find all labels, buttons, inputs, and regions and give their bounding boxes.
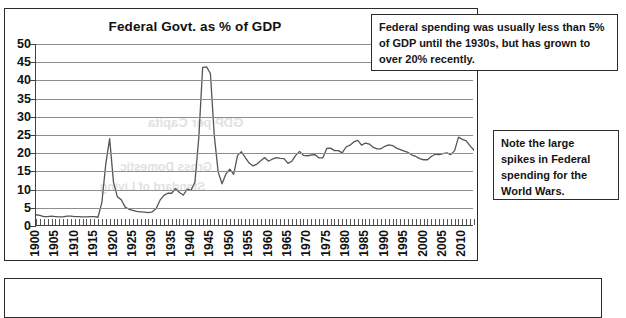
x-axis-tick-label: 1900 [29, 230, 41, 257]
x-axis-tick-label: 1960 [262, 230, 274, 257]
x-axis-tick-mark [59, 219, 60, 225]
x-axis-tick-mark [199, 219, 200, 225]
x-axis-tick-mark [431, 219, 432, 225]
y-axis-tick-mark [30, 62, 36, 63]
x-axis-tick-mark [249, 219, 250, 225]
y-axis-tick-label: 30 [17, 111, 31, 124]
x-axis-tick-mark [424, 219, 425, 225]
gridline [36, 153, 473, 154]
x-axis-tick-mark [168, 219, 169, 225]
x-axis-tick-mark [90, 219, 91, 225]
x-axis-tick-mark [385, 219, 386, 225]
x-axis-tick-mark [451, 219, 452, 225]
x-axis-tick-mark [350, 219, 351, 225]
x-axis-tick-mark [373, 219, 374, 225]
y-axis-tick-mark [30, 117, 36, 118]
x-axis-tick-mark [342, 219, 343, 225]
x-axis-tick-mark [129, 219, 130, 225]
x-axis-tick-mark [447, 219, 448, 225]
x-axis-tick-mark [117, 219, 118, 225]
x-axis-tick-label: 1910 [68, 230, 80, 257]
x-axis-tick-mark [365, 219, 366, 225]
gridline [36, 208, 473, 209]
x-axis-tick-mark [238, 219, 239, 225]
x-axis-tick-mark [319, 219, 320, 225]
x-axis-tick-mark [257, 219, 258, 225]
x-axis-tick-mark [261, 219, 262, 225]
x-axis-tick-mark [334, 219, 335, 225]
x-axis-tick-label: 1965 [281, 230, 293, 257]
x-axis-tick-mark [474, 219, 475, 225]
y-axis-tick-mark [30, 226, 36, 227]
x-axis-tick-mark [172, 219, 173, 225]
y-axis-tick-mark [30, 208, 36, 209]
x-axis-tick-mark [393, 219, 394, 225]
x-axis-tick-mark [389, 219, 390, 225]
x-axis-tick-label: 1995 [397, 230, 409, 257]
x-axis-tick-mark [152, 219, 153, 225]
x-axis-tick-mark [439, 219, 440, 225]
x-axis-tick-label: 2000 [417, 230, 429, 257]
gridline [36, 190, 473, 191]
x-axis-tick-mark [404, 219, 405, 225]
x-axis-tick-mark [83, 219, 84, 225]
x-axis-tick-label: 1985 [358, 230, 370, 257]
annotation-note-spending-growth: Federal spending was usually less than 5… [371, 14, 618, 71]
x-axis-tick-mark [106, 219, 107, 225]
x-axis-tick-mark [435, 219, 436, 225]
x-axis-tick-mark [164, 219, 165, 225]
x-axis-tick-label: 1940 [184, 230, 196, 257]
x-axis-tick-mark [346, 219, 347, 225]
x-axis-tick-mark [412, 219, 413, 225]
x-axis-tick-label: 1925 [126, 230, 138, 257]
x-axis-tick-mark [331, 219, 332, 225]
x-axis-tick-mark [377, 219, 378, 225]
y-axis-tick-mark [30, 190, 36, 191]
x-axis-tick-mark [114, 219, 115, 225]
x-axis-tick-mark [408, 219, 409, 225]
x-axis-tick-mark [292, 219, 293, 225]
y-axis-tick-label: 35 [17, 92, 31, 105]
x-axis-tick-mark [416, 219, 417, 225]
annotation-note-world-wars: Note the large spikes in Federal spendin… [493, 130, 619, 200]
x-axis-tick-mark [75, 219, 76, 225]
x-axis-tick-mark [214, 219, 215, 225]
x-axis-tick-mark [98, 219, 99, 225]
x-axis-tick-label: 1980 [339, 230, 351, 257]
x-axis-tick-mark [86, 219, 87, 225]
x-axis-tick-mark [323, 219, 324, 225]
x-axis-tick-mark [187, 219, 188, 225]
gridline [36, 80, 473, 81]
x-axis-tick-mark [311, 219, 312, 225]
plot-area: 05101520253035404550 [35, 44, 473, 226]
x-axis-tick-label: 1905 [48, 230, 60, 257]
x-axis-tick-mark [148, 219, 149, 225]
x-axis-tick-mark [400, 219, 401, 225]
y-axis-tick-mark [30, 171, 36, 172]
x-axis-tick-mark [462, 219, 463, 225]
x-axis-tick-mark [327, 219, 328, 225]
gridline [36, 171, 473, 172]
x-axis-tick-mark [253, 219, 254, 225]
y-axis-tick-label: 10 [17, 183, 31, 196]
x-axis-tick-mark [362, 219, 363, 225]
x-axis-tick-mark [156, 219, 157, 225]
x-axis-tick-mark [381, 219, 382, 225]
x-axis-tick-mark [71, 219, 72, 225]
y-axis-tick-label: 25 [17, 129, 31, 142]
y-axis-tick-label: 20 [17, 147, 31, 160]
x-axis-tick-label: 1975 [320, 230, 332, 257]
x-axis-tick-mark [110, 219, 111, 225]
x-axis-tick-label: 1930 [145, 230, 157, 257]
x-axis-tick-mark [203, 219, 204, 225]
x-axis-tick-mark [183, 219, 184, 225]
x-axis-tick-mark [241, 219, 242, 225]
x-axis-tick-mark [307, 219, 308, 225]
x-axis-tick-mark [269, 219, 270, 225]
x-axis-tick-label: 1950 [223, 230, 235, 257]
x-axis-tick-mark [48, 219, 49, 225]
x-axis-tick-mark [470, 219, 471, 225]
y-axis-tick-mark [30, 44, 36, 45]
y-axis-tick-mark [30, 135, 36, 136]
x-axis-tick-mark [443, 219, 444, 225]
